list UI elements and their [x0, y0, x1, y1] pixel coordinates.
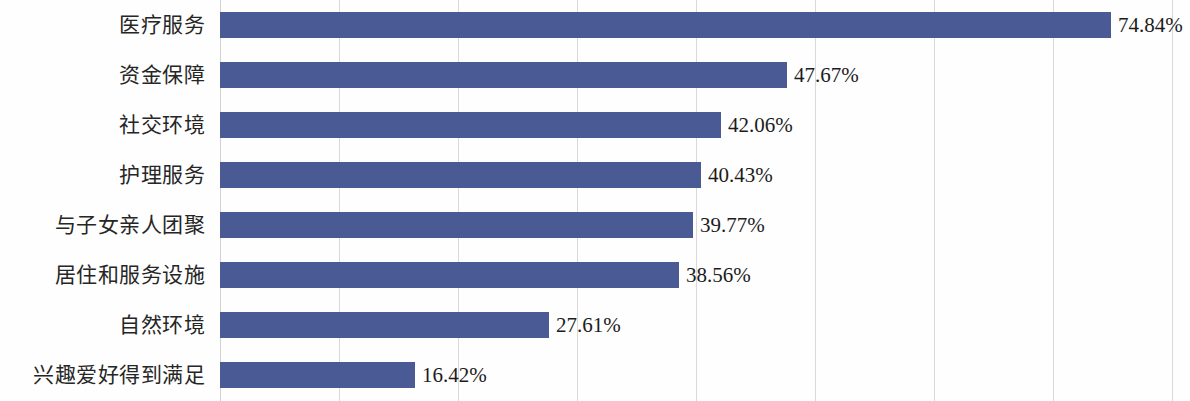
bar[interactable] [220, 12, 1111, 38]
bar-row: 兴趣爱好得到满足 16.42% [0, 350, 1190, 400]
category-label: 居住和服务设施 [0, 250, 205, 300]
bar-value-label: 74.84% [1111, 12, 1183, 38]
bar-row: 社交环境 42.06% [0, 100, 1190, 150]
bar-value-label: 39.77% [693, 212, 765, 238]
bar-track: 38.56% [220, 250, 1190, 300]
bar[interactable] [220, 112, 721, 138]
category-label: 护理服务 [0, 150, 205, 200]
bar-track: 39.77% [220, 200, 1190, 250]
bar-row: 居住和服务设施 38.56% [0, 250, 1190, 300]
bar-chart: 医疗服务 74.84% 资金保障 47.67% 社交环境 42.06% 护理服务… [0, 0, 1190, 401]
category-label: 自然环境 [0, 300, 205, 350]
bar-track: 16.42% [220, 350, 1190, 400]
bar-row: 自然环境 27.61% [0, 300, 1190, 350]
bar[interactable] [220, 212, 693, 238]
bar-value-label: 42.06% [721, 112, 793, 138]
bar-track: 40.43% [220, 150, 1190, 200]
bar-row: 资金保障 47.67% [0, 50, 1190, 100]
bar[interactable] [220, 62, 787, 88]
category-label: 兴趣爱好得到满足 [0, 350, 205, 400]
bar-value-label: 38.56% [679, 262, 751, 288]
category-label: 社交环境 [0, 100, 205, 150]
bar-track: 42.06% [220, 100, 1190, 150]
category-label: 与子女亲人团聚 [0, 200, 205, 250]
category-label: 资金保障 [0, 50, 205, 100]
bar[interactable] [220, 262, 679, 288]
bar[interactable] [220, 312, 549, 338]
bar-value-label: 47.67% [787, 62, 859, 88]
bar-track: 47.67% [220, 50, 1190, 100]
bar[interactable] [220, 362, 415, 388]
bar-row: 护理服务 40.43% [0, 150, 1190, 200]
category-label: 医疗服务 [0, 0, 205, 50]
bar-value-label: 27.61% [549, 312, 621, 338]
bar-track: 74.84% [220, 0, 1190, 50]
bar-row: 与子女亲人团聚 39.77% [0, 200, 1190, 250]
bar-row: 医疗服务 74.84% [0, 0, 1190, 50]
bar[interactable] [220, 162, 701, 188]
bar-value-label: 16.42% [415, 362, 487, 388]
bar-value-label: 40.43% [701, 162, 773, 188]
bar-track: 27.61% [220, 300, 1190, 350]
